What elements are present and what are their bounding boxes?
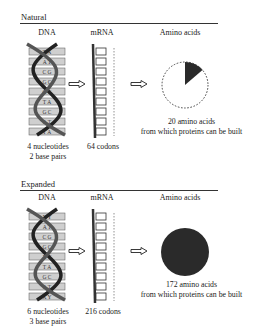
- arrow-right-icon: [68, 247, 86, 255]
- svg-text:G C: G C: [42, 274, 51, 280]
- arrow-right-icon: [130, 80, 148, 88]
- arrow-right-icon: [130, 247, 148, 255]
- section-title: Natural: [21, 12, 47, 22]
- amino-note: from which proteins can be built: [130, 290, 253, 300]
- panel-natural: Natural DNA mRNA Amino acids T AA TC GG …: [0, 0, 253, 165]
- dna-header: DNA: [32, 28, 62, 37]
- amino-header: Amino acids: [150, 28, 210, 37]
- panel-expanded: Expanded DNA mRNA Amino acids X YA TC GG…: [0, 167, 253, 332]
- mrna-header: mRNA: [84, 193, 120, 202]
- svg-text:T A: T A: [43, 99, 51, 105]
- amino-caption: 172 amino acids from which proteins can …: [130, 280, 253, 299]
- base-pair-count: 2 base pairs: [18, 152, 78, 162]
- amino-acid-circle-icon: [160, 227, 210, 277]
- dna-header: DNA: [32, 193, 62, 202]
- svg-text:T A: T A: [43, 264, 51, 270]
- amino-count: 20 amino acids: [130, 117, 253, 127]
- section-divider: [20, 190, 218, 191]
- svg-text:C G: C G: [42, 69, 51, 75]
- dna-helix-icon: T AA TC GG CG CT AG CA TT A: [17, 42, 77, 137]
- amino-note: from which proteins can be built: [130, 127, 253, 137]
- codon-count: 64 codons: [80, 142, 126, 152]
- amino-acid-pie-icon: [160, 60, 210, 110]
- arrow-right-icon: [68, 80, 86, 88]
- section-divider: [20, 23, 218, 24]
- mrna-strand-icon: [90, 209, 120, 304]
- svg-text:G C: G C: [42, 109, 51, 115]
- mrna-header: mRNA: [84, 28, 120, 37]
- section-title: Expanded: [21, 179, 55, 189]
- svg-text:C G: C G: [42, 234, 51, 240]
- amino-caption: 20 amino acids from which proteins can b…: [130, 117, 253, 136]
- amino-header: Amino acids: [150, 193, 210, 202]
- dna-caption: 6 nucleotides 3 base pairs: [18, 307, 78, 326]
- amino-count: 172 amino acids: [130, 280, 253, 290]
- base-pair-count: 3 base pairs: [18, 317, 78, 327]
- mrna-strand-icon: [90, 44, 120, 139]
- nucleotide-count: 6 nucleotides: [18, 307, 78, 317]
- nucleotide-count: 4 nucleotides: [18, 142, 78, 152]
- dna-caption: 4 nucleotides 2 base pairs: [18, 142, 78, 161]
- codon-count: 216 codons: [80, 307, 126, 317]
